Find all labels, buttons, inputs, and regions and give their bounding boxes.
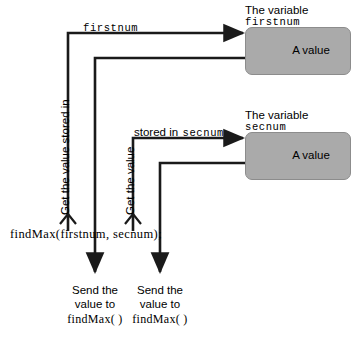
variable-box-secnum-value: A value [266, 150, 330, 162]
variable-box-firstnum-value: A value [266, 45, 330, 57]
wire-label-secnum-sans: stored in [134, 126, 178, 138]
caption-firstnum-box: The variable firstnum [245, 4, 308, 29]
wire-label-firstnum: firstnum [83, 18, 138, 34]
diagram-canvas: The variable firstnum A value The variab… [0, 0, 356, 342]
variable-box-secnum: A value [245, 132, 351, 180]
caption-secnum-line1: The variable [245, 109, 308, 122]
variable-box-firstnum: A value [245, 27, 351, 75]
wire-out-secnum [133, 138, 243, 231]
code-statement: findMax(firstnum, secnum); [10, 228, 162, 241]
bottom-caption-secnum-line3: findMax( ) [114, 312, 206, 327]
wire-label-secnum: stored in secnum [134, 123, 224, 139]
wire-label-secnum-mono: secnum [183, 127, 224, 139]
caption-firstnum-line1: The variable [245, 4, 308, 17]
bottom-caption-secnum: Send the value to findMax( ) [114, 283, 206, 327]
wire-label-firstnum-mono: firstnum [83, 22, 138, 34]
caption-secnum-box: The variable secnum [245, 109, 308, 134]
vertical-label-get-value-stored-in: Get the value stored in [60, 99, 72, 215]
vertical-label-get-value: Get the value [125, 147, 137, 215]
bottom-caption-secnum-line1: Send the [114, 283, 206, 297]
wire-return-secnum [160, 163, 246, 272]
bottom-caption-secnum-line2: value to [114, 297, 206, 311]
